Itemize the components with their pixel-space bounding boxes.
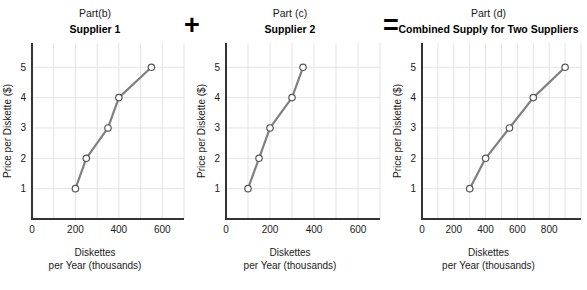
gridlines — [422, 43, 581, 219]
panel-c-xlabel-line1: Diskettes — [194, 246, 386, 259]
panel-c-titles: Part (c) Supplier 2 — [194, 0, 386, 37]
svg-text:3: 3 — [20, 122, 26, 133]
y-axis-title: Price per Diskette ($) — [196, 84, 207, 178]
svg-text:3: 3 — [410, 122, 416, 133]
data-point — [72, 185, 78, 191]
svg-text:5: 5 — [410, 62, 416, 73]
data-point — [562, 64, 568, 70]
supply-curve-figure: Part(b) Supplier 1 123450200400600Price … — [0, 0, 587, 290]
panel-c-part-label: Part (c) — [194, 6, 386, 21]
panel-c-plot: 123450200400600Price per Diskette ($) — [194, 37, 386, 245]
svg-text:600: 600 — [509, 224, 526, 235]
equals-operator-icon: = — [383, 0, 387, 39]
svg-text:2: 2 — [20, 153, 26, 164]
svg-text:200: 200 — [67, 224, 84, 235]
y-tick-labels: 12345 — [20, 62, 26, 194]
data-point — [148, 64, 154, 70]
plus-operator-icon: + — [184, 0, 188, 39]
panel-supplier-2: Part (c) Supplier 2 123450200400600Price… — [194, 0, 386, 290]
panel-b-titles: Part(b) Supplier 1 — [0, 0, 190, 37]
svg-text:3: 3 — [214, 122, 220, 133]
panel-c-xaxis-caption: Diskettes per Year (thousands) — [194, 246, 386, 272]
svg-text:800: 800 — [541, 224, 558, 235]
panel-d-xaxis-caption: Diskettes per Year (thousands) — [390, 246, 587, 272]
data-point — [300, 64, 306, 70]
panel-combined-supply: Part (d) Combined Supply for Two Supplie… — [390, 0, 587, 290]
data-point — [267, 125, 273, 131]
panel-b-chart-svg: 123450200400600Price per Diskette ($) — [0, 37, 190, 245]
panel-d-part-label: Part (d) — [390, 6, 587, 21]
panel-c-chart-svg: 123450200400600Price per Diskette ($) — [194, 37, 386, 245]
panel-b-part-label: Part(b) — [0, 6, 190, 21]
panel-b-plot: 123450200400600Price per Diskette ($) — [0, 37, 190, 245]
x-tick-labels: 0200400600800 — [419, 224, 558, 235]
data-point — [530, 94, 536, 100]
data-point — [256, 155, 262, 161]
panel-b-chart-title: Supplier 1 — [0, 21, 190, 37]
panel-d-chart-svg: 123450200400600800Price per Diskette ($) — [390, 37, 587, 245]
panel-c-xlabel-line2: per Year (thousands) — [194, 259, 386, 272]
panel-d-xlabel-line1: Diskettes — [390, 246, 587, 259]
panel-c-chart-title: Supplier 2 — [194, 21, 386, 37]
data-point — [482, 155, 488, 161]
svg-text:200: 200 — [262, 224, 279, 235]
svg-text:5: 5 — [20, 62, 26, 73]
svg-text:600: 600 — [350, 224, 367, 235]
svg-text:0: 0 — [29, 224, 35, 235]
y-tick-labels: 12345 — [214, 62, 220, 194]
svg-text:2: 2 — [410, 153, 416, 164]
svg-text:400: 400 — [306, 224, 323, 235]
panel-d-chart-title: Combined Supply for Two Suppliers — [390, 21, 587, 37]
svg-text:1: 1 — [214, 183, 220, 194]
panel-d-xlabel-line2: per Year (thousands) — [390, 259, 587, 272]
data-point — [245, 185, 251, 191]
svg-text:5: 5 — [214, 62, 220, 73]
x-tick-labels: 0200400600 — [223, 224, 367, 235]
panel-supplier-1: Part(b) Supplier 1 123450200400600Price … — [0, 0, 190, 290]
svg-text:2: 2 — [214, 153, 220, 164]
data-point — [467, 185, 473, 191]
svg-text:4: 4 — [20, 92, 26, 103]
svg-text:1: 1 — [410, 183, 416, 194]
y-tick-labels: 12345 — [410, 62, 416, 194]
svg-text:400: 400 — [477, 224, 494, 235]
svg-text:4: 4 — [410, 92, 416, 103]
svg-text:1: 1 — [20, 183, 26, 194]
panel-d-titles: Part (d) Combined Supply for Two Supplie… — [390, 0, 587, 37]
y-axis-title: Price per Diskette ($) — [392, 84, 403, 178]
data-point — [105, 125, 111, 131]
svg-text:200: 200 — [445, 224, 462, 235]
panel-d-plot: 123450200400600800Price per Diskette ($) — [390, 37, 587, 245]
svg-text:0: 0 — [419, 224, 425, 235]
panel-b-xaxis-caption: Diskettes per Year (thousands) — [0, 246, 190, 272]
data-point — [116, 94, 122, 100]
data-point — [83, 155, 89, 161]
svg-text:400: 400 — [111, 224, 128, 235]
svg-text:600: 600 — [154, 224, 171, 235]
svg-text:0: 0 — [223, 224, 229, 235]
panel-b-xlabel-line2: per Year (thousands) — [0, 259, 190, 272]
x-tick-labels: 0200400600 — [29, 224, 171, 235]
data-point — [289, 94, 295, 100]
panel-b-xlabel-line1: Diskettes — [0, 246, 190, 259]
data-point — [506, 125, 512, 131]
svg-text:4: 4 — [214, 92, 220, 103]
y-axis-title: Price per Diskette ($) — [2, 84, 13, 178]
